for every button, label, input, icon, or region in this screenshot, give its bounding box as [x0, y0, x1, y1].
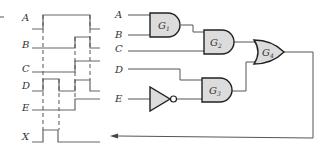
logic-diagram: A B C D E X A B C D E [0, 0, 329, 149]
signal-label-b: B [21, 39, 29, 50]
arrowhead-icon [110, 134, 118, 139]
wire-g1-g2 [181, 25, 204, 32]
inverter-triangle [150, 87, 170, 111]
signal-label-e: E [21, 102, 30, 113]
input-label-d: D [114, 64, 123, 75]
wire-d [128, 69, 202, 80]
waveform-e [32, 99, 100, 110]
input-label-e: E [114, 93, 123, 104]
signal-label-a: A [21, 12, 29, 23]
input-label-b: B [114, 29, 122, 40]
timing-diagram: A B C D E X [21, 12, 100, 142]
circuit: A B C D E G1 G2 G3 G4 [110, 9, 313, 139]
waveform-d [32, 79, 100, 91]
input-label-a: A [114, 9, 122, 20]
waveform-x [32, 130, 100, 142]
wire-g3-g4 [232, 62, 256, 91]
signal-label-x: X [21, 131, 30, 142]
input-label-c: C [115, 43, 123, 54]
inverter-bubble [171, 96, 177, 102]
signal-label-d: D [21, 80, 30, 91]
signal-label-c: C [22, 63, 30, 74]
